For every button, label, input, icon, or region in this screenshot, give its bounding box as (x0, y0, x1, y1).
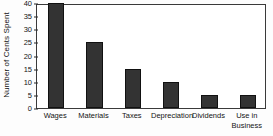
y-tick-mark (34, 56, 38, 57)
y-tick-label: 10 (24, 79, 32, 87)
y-tick-label: 0 (28, 105, 32, 113)
y-tick-mark (34, 95, 38, 96)
x-tick-label-line: Wages (44, 111, 67, 120)
y-axis-title: Number of Cents Spent (3, 12, 11, 98)
bar (201, 95, 217, 108)
y-tick-label: 20 (24, 53, 32, 61)
y-tick-mark (34, 69, 38, 70)
bar (48, 3, 64, 108)
y-tick-label: 5 (28, 92, 32, 100)
bar (125, 69, 141, 108)
x-tick-label: Use inBusiness (228, 111, 266, 131)
plot-area (36, 4, 266, 109)
y-tick-mark (34, 43, 38, 44)
y-tick-mark (34, 4, 38, 5)
y-tick-label: 15 (24, 66, 32, 74)
x-axis-tick-labels: WagesMaterialsTaxesDepreciationDividends… (36, 111, 266, 136)
y-tick-label: 25 (24, 40, 32, 48)
x-tick-label-line: Use in (236, 111, 257, 120)
x-tick-label-line: Taxes (122, 111, 142, 120)
bars-container (37, 5, 265, 108)
y-tick-label: 40 (24, 0, 32, 8)
x-tick-label: Depreciation (151, 111, 189, 121)
x-tick-label-line: Business (228, 121, 266, 131)
y-axis-title-container: Number of Cents Spent (0, 0, 14, 110)
y-tick-mark (34, 17, 38, 18)
x-tick-label-line: Depreciation (151, 111, 193, 120)
y-axis-tick-labels: 4035302520151050 (14, 0, 34, 109)
bar (163, 82, 179, 108)
bar (86, 42, 102, 108)
x-tick-label: Materials (74, 111, 112, 121)
x-tick-label: Dividends (189, 111, 227, 121)
x-tick-label-line: Dividends (192, 111, 225, 120)
x-tick-label: Wages (36, 111, 74, 121)
y-tick-label: 35 (24, 13, 32, 21)
bar (240, 95, 256, 108)
y-tick-mark (34, 109, 38, 110)
y-tick-mark (34, 82, 38, 83)
x-tick-label: Taxes (113, 111, 151, 121)
y-tick-mark (34, 30, 38, 31)
x-tick-label-line: Materials (78, 111, 108, 120)
bar-chart-figure: Number of Cents Spent 4035302520151050 W… (0, 0, 273, 136)
y-tick-label: 30 (24, 27, 32, 35)
